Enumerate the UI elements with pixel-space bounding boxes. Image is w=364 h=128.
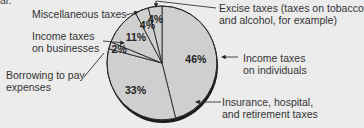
label-insurance-line1: Insurance, hospital, — [222, 96, 318, 108]
label-individuals-line2: on individuals — [243, 64, 307, 76]
slice-percent-label: 46% — [185, 53, 207, 65]
label-excise-line1: Excise taxes (taxes on tobacco — [219, 2, 364, 14]
label-borrowing-line2: expenses — [6, 81, 85, 93]
label-individuals-line1: Income taxes — [243, 52, 307, 64]
label-borrowing: Borrowing to pay expenses — [6, 69, 85, 93]
label-borrowing-line1: Borrowing to pay — [6, 69, 85, 81]
label-businesses-line2: on businesses — [32, 42, 99, 54]
label-individuals: Income taxes on individuals — [243, 52, 307, 76]
label-misc-line1: Miscellaneous taxes — [32, 8, 127, 20]
label-excise-line2: and alcohol, for example) — [219, 14, 364, 26]
label-excise: Excise taxes (taxes on tobacco and alcoh… — [219, 2, 364, 26]
slice-percent-label: 11% — [126, 31, 147, 43]
label-insurance: Insurance, hospital, and retirement taxe… — [222, 96, 318, 120]
slice-percent-label: 33% — [125, 84, 147, 96]
label-businesses: Income taxes on businesses — [32, 30, 99, 54]
label-businesses-line1: Income taxes — [32, 30, 99, 42]
label-insurance-line2: and retirement taxes — [222, 108, 318, 120]
slice-percent-label: 2% — [112, 43, 128, 55]
label-misc: Miscellaneous taxes — [32, 8, 127, 20]
slice-percent-label: 4% — [148, 13, 164, 25]
